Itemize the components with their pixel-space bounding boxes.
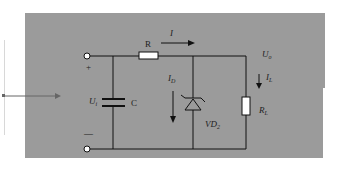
pointer-dot [2,94,5,97]
label-plus: + [86,62,91,72]
label-minus: — [83,128,94,138]
circuit-diagram: R I Uo IL Ui C ID VD2 RL + — [0,0,337,177]
terminal-bottom [84,146,90,152]
label-c: C [131,98,137,108]
label-r: R [145,39,151,49]
panel [25,13,323,158]
terminal-top [84,53,90,59]
resistor-r [139,52,158,59]
load-resistor [242,97,250,115]
